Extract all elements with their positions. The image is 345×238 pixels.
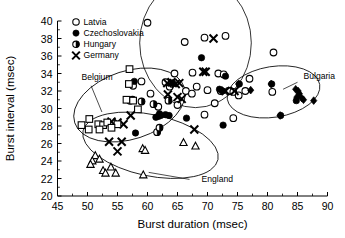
data-point bbox=[85, 126, 92, 133]
cluster-label-belgium: Belgium bbox=[82, 72, 113, 82]
y-tick-label: 34 bbox=[41, 68, 53, 80]
data-point bbox=[107, 163, 114, 170]
data-point bbox=[130, 97, 137, 104]
data-point bbox=[183, 115, 189, 121]
legend-item-germany: Germany bbox=[72, 50, 119, 60]
y-tick-label: 38 bbox=[41, 33, 53, 45]
data-point bbox=[201, 111, 208, 118]
cluster-label-bulgaria: Bulgaria bbox=[304, 71, 336, 81]
y-tick-label: 40 bbox=[41, 15, 53, 27]
x-tick-label: 85 bbox=[292, 200, 304, 212]
legend-item-czechoslovakia: Czechoslovakia bbox=[73, 28, 144, 38]
data-point bbox=[135, 106, 142, 113]
x-tick-label: 60 bbox=[142, 200, 154, 212]
legend-label: Germany bbox=[84, 50, 120, 60]
data-point bbox=[156, 124, 163, 131]
data-point bbox=[108, 124, 115, 131]
x-tick-label: 70 bbox=[202, 200, 214, 212]
x-tick-label: 75 bbox=[232, 200, 244, 212]
cluster-label-england: England bbox=[202, 174, 234, 184]
data-point bbox=[147, 90, 154, 97]
data-point bbox=[174, 102, 181, 109]
legend-item-hungary: Hungary bbox=[73, 39, 117, 49]
x-axis-title: Burst duration (msec) bbox=[138, 218, 248, 230]
series-england bbox=[87, 139, 199, 178]
series-bulgaria bbox=[236, 80, 317, 119]
plot-svg: 4550556065707580859020222426283032343638… bbox=[0, 0, 345, 238]
data-point bbox=[270, 49, 277, 56]
data-point bbox=[96, 126, 103, 133]
y-tick-label: 24 bbox=[41, 155, 53, 167]
data-point bbox=[189, 90, 196, 97]
data-point bbox=[193, 83, 200, 90]
data-point bbox=[138, 98, 145, 105]
data-point bbox=[230, 115, 237, 122]
data-point bbox=[126, 66, 133, 73]
series-czechoslovakia bbox=[131, 55, 299, 137]
y-tick-label: 26 bbox=[41, 138, 53, 150]
x-tick-label: 50 bbox=[82, 200, 94, 212]
data-point bbox=[171, 70, 178, 77]
data-point bbox=[242, 88, 249, 95]
data-point bbox=[126, 81, 133, 88]
legend-label: Hungary bbox=[84, 39, 117, 49]
data-point bbox=[180, 139, 187, 146]
data-point bbox=[127, 112, 135, 120]
data-point bbox=[132, 130, 138, 136]
data-point bbox=[123, 96, 130, 103]
data-point bbox=[138, 78, 145, 85]
y-tick-label: 28 bbox=[41, 120, 53, 132]
legend-label: Czechoslovakia bbox=[84, 28, 144, 38]
data-point bbox=[190, 126, 198, 134]
legend-label: Latvia bbox=[84, 17, 107, 27]
x-tick-label: 80 bbox=[262, 200, 274, 212]
x-tick-label: 55 bbox=[112, 200, 124, 212]
y-tick-label: 32 bbox=[41, 85, 53, 97]
data-point bbox=[144, 19, 151, 26]
scatter-chart: 4550556065707580859020222426283032343638… bbox=[0, 0, 345, 238]
x-tick-label: 45 bbox=[52, 200, 64, 212]
y-tick-label: 36 bbox=[41, 50, 53, 62]
y-tick-label: 22 bbox=[41, 173, 53, 185]
data-point bbox=[114, 147, 122, 155]
data-point bbox=[156, 111, 162, 117]
data-point bbox=[211, 100, 218, 107]
data-point bbox=[204, 87, 211, 94]
data-point bbox=[189, 69, 196, 76]
leader-line-belgium bbox=[91, 86, 102, 112]
data-point bbox=[198, 55, 204, 61]
legend-layer: LatviaCzechoslovakiaHungaryGermany bbox=[72, 17, 144, 61]
legend-item-latvia: Latvia bbox=[73, 17, 107, 27]
data-point bbox=[192, 142, 199, 149]
y-tick-label: 20 bbox=[41, 190, 53, 202]
data-point bbox=[86, 116, 93, 123]
x-tick-label: 90 bbox=[322, 200, 334, 212]
data-point bbox=[181, 39, 188, 46]
data-point bbox=[210, 35, 218, 43]
data-point bbox=[201, 34, 208, 41]
data-point bbox=[222, 33, 229, 40]
y-tick-label: 30 bbox=[41, 103, 53, 115]
x-tick-label: 65 bbox=[172, 200, 184, 212]
data-point bbox=[220, 122, 226, 128]
data-point bbox=[78, 122, 85, 129]
data-point bbox=[150, 101, 157, 108]
y-axis-title: Burst interval (msec) bbox=[4, 56, 16, 162]
series-germany bbox=[105, 35, 238, 156]
data-point bbox=[166, 112, 172, 118]
data-point bbox=[269, 89, 276, 96]
data-point bbox=[246, 75, 253, 82]
data-point bbox=[222, 73, 228, 79]
